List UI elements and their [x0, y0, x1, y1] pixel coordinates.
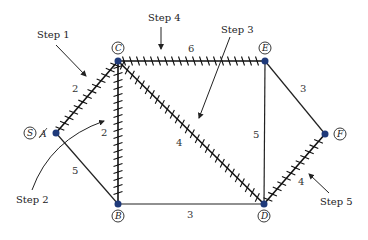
weight-e-f: 3: [300, 83, 306, 94]
hatch-mark: [255, 193, 259, 202]
edge-a-b: [56, 133, 118, 204]
hatch-mark: [135, 76, 139, 85]
hatch-mark: [268, 192, 277, 196]
hatch-mark: [101, 74, 110, 78]
hatch-mark: [130, 71, 134, 80]
hatch-mark: [92, 84, 101, 88]
hatch-mark: [291, 166, 300, 170]
hatch-mark: [273, 187, 282, 191]
hatch-mark: [314, 140, 323, 144]
edge-e-d: [264, 61, 265, 204]
weight-c-d: 4: [176, 137, 182, 148]
hatch-mark: [200, 139, 204, 148]
hatch-mark: [160, 100, 164, 109]
hatch-mark: [170, 110, 174, 119]
step-3-label: Step 3: [221, 24, 254, 35]
network-diagram: 2 5 2 6 4 5 3 3 4 S A B C D E F Step 1 S…: [0, 0, 368, 240]
hatch-mark: [185, 125, 189, 134]
node-a: [53, 130, 60, 137]
hatch-mark: [155, 95, 159, 104]
weight-e-d: 5: [253, 129, 259, 140]
step-3-arrow: [199, 37, 230, 118]
hatch-mark: [65, 116, 74, 120]
hatch-mark: [69, 111, 78, 115]
hatch-mark: [220, 159, 224, 168]
node-e: [262, 58, 269, 65]
hatch-mark: [240, 178, 244, 187]
edges-hatched: [56, 57, 325, 205]
hatch-mark: [78, 100, 87, 104]
step-5-arrow: [309, 174, 329, 193]
hatch-mark: [210, 149, 214, 158]
hatch-mark: [97, 79, 106, 83]
hatch-mark: [300, 155, 309, 159]
hatch-mark: [175, 115, 179, 124]
hatch-mark: [83, 95, 92, 99]
node-c: [115, 58, 122, 65]
weight-c-b: 2: [101, 127, 107, 138]
hatch-mark: [305, 150, 314, 154]
hatch-mark: [180, 120, 184, 129]
node-d: [261, 201, 268, 208]
edge-d-f: [264, 134, 325, 204]
hatch-mark: [165, 105, 169, 114]
node-label-f: F: [336, 129, 344, 139]
weight-b-d: 3: [187, 209, 193, 220]
weight-d-f: 4: [298, 176, 304, 187]
node-f: [322, 131, 329, 138]
step-4-label: Step 4: [148, 12, 181, 23]
hatch-mark: [245, 183, 249, 192]
hatch-mark: [195, 134, 199, 143]
hatch-mark: [150, 90, 154, 99]
hatch-mark: [277, 182, 286, 186]
hatch-mark: [287, 171, 296, 175]
hatch-mark: [296, 161, 305, 165]
hatch-mark: [215, 154, 219, 163]
hatch-mark: [106, 68, 115, 72]
hatch-mark: [310, 145, 319, 149]
node-label-d: D: [260, 211, 268, 221]
hatch-mark: [74, 105, 83, 109]
step-2-label: Step 2: [16, 194, 49, 205]
hatch-mark: [205, 144, 209, 153]
hatch-mark: [282, 177, 291, 181]
weight-a-b: 5: [72, 165, 78, 176]
hatch-mark: [235, 174, 239, 183]
node-label-a-struck: A: [39, 129, 47, 139]
node-label-s: S: [27, 128, 33, 138]
hatch-mark: [140, 81, 144, 90]
step-1-arrow: [56, 45, 86, 76]
hatch-mark: [125, 66, 129, 75]
hatch-mark: [250, 188, 254, 197]
hatch-mark: [225, 164, 229, 173]
node-label-b: B: [114, 211, 122, 221]
hatch-mark: [88, 90, 97, 94]
edge-e-f: [265, 61, 325, 134]
weight-a-c: 2: [72, 83, 78, 94]
node-labels: [24, 42, 346, 222]
hatch-mark: [190, 130, 194, 139]
step-1-label: Step 1: [37, 29, 70, 40]
weight-c-e: 6: [188, 43, 194, 54]
node-label-c: C: [115, 43, 122, 53]
step-5-label: Step 5: [320, 196, 353, 207]
hatch-mark: [60, 121, 69, 125]
node-label-e: E: [261, 43, 269, 53]
hatch-mark: [230, 169, 234, 178]
node-b: [115, 201, 122, 208]
hatch-mark: [145, 85, 149, 94]
